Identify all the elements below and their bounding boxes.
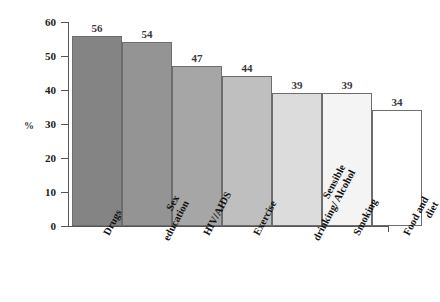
bar-value-sensible-drinking-alcohol: 39: [272, 80, 322, 91]
y-tick-label-20: 20: [34, 153, 56, 164]
y-tick-label-60: 60: [34, 17, 56, 28]
y-tick-20: [61, 158, 68, 159]
y-tick-label-30: 30: [34, 119, 56, 130]
bar-value-exercise: 44: [222, 63, 272, 74]
bar-sex-education[interactable]: [122, 42, 172, 226]
y-tick-label-10: 10: [34, 187, 56, 198]
bar-drugs[interactable]: [72, 36, 122, 226]
bar-value-drugs: 56: [72, 23, 122, 34]
y-tick-60: [61, 22, 68, 23]
bar-value-sex-education: 54: [122, 29, 172, 40]
y-tick-50: [61, 56, 68, 57]
bar-value-smoking: 39: [322, 80, 372, 91]
x-axis-end-tick: [388, 226, 389, 232]
y-tick-label-50: 50: [34, 51, 56, 62]
bar-exercise[interactable]: [222, 76, 272, 226]
y-tick-30: [61, 124, 68, 125]
bar-value-food-and-diet: 34: [372, 97, 422, 108]
y-tick-40: [61, 90, 68, 91]
y-tick-label-0: 0: [34, 221, 56, 232]
bar-value-hiv-aids: 47: [172, 53, 222, 64]
y-tick-10: [61, 192, 68, 193]
y-tick-label-40: 40: [34, 85, 56, 96]
